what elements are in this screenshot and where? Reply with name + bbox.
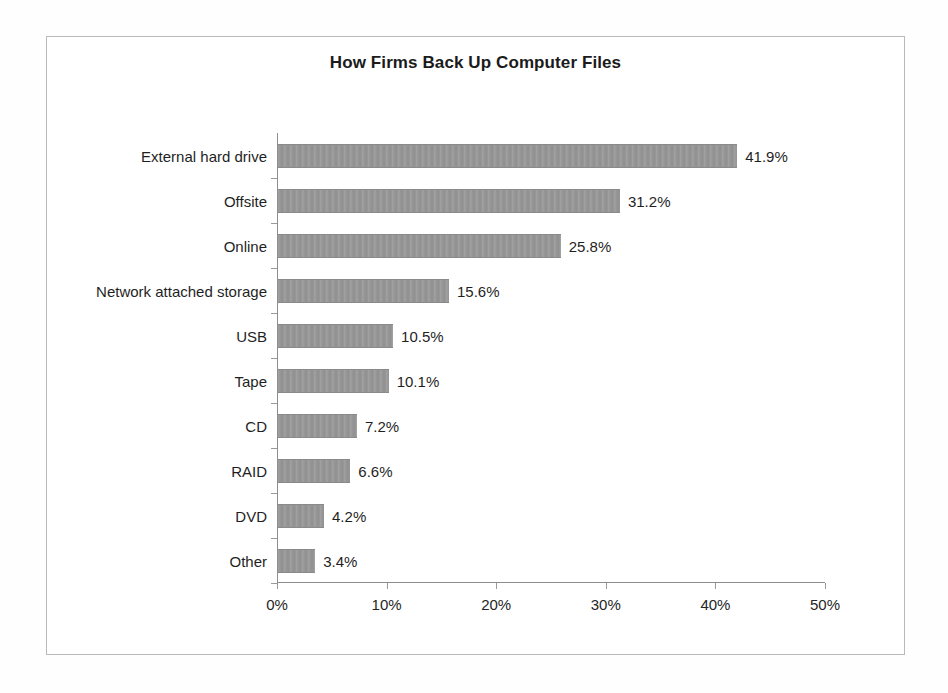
category-label: Offsite [224,192,267,209]
category-label: Network attached storage [96,282,267,299]
bar-value-label: 3.4% [323,552,357,569]
x-axis-tick-label: 10% [372,596,402,613]
bar [278,549,315,573]
x-axis-tick [606,583,607,589]
bar-value-label: 10.5% [401,327,444,344]
bar-row: Online25.8% [277,223,825,268]
bar-row: CD7.2% [277,403,825,448]
plot-area: 0%10%20%30%40%50%External hard drive41.9… [277,133,825,583]
bar-value-label: 4.2% [332,507,366,524]
bar-row: Tape10.1% [277,358,825,403]
x-axis-tick [387,583,388,589]
bar-row: External hard drive41.9% [277,133,825,178]
bar-value-label: 25.8% [569,237,612,254]
bar-value-label: 10.1% [397,372,440,389]
category-label: Tape [234,372,267,389]
category-label: Online [224,237,267,254]
bar-row: Network attached storage15.6% [277,268,825,313]
category-label: CD [245,417,267,434]
bar-row: Other3.4% [277,538,825,583]
x-axis-tick-label: 30% [591,596,621,613]
bar [278,324,393,348]
bar [278,234,561,258]
bar [278,504,324,528]
y-axis-tick [271,583,277,584]
category-label: Other [229,552,267,569]
bar [278,459,350,483]
bar-row: USB10.5% [277,313,825,358]
bar-row: Offsite31.2% [277,178,825,223]
bar [278,369,389,393]
x-axis-tick [277,583,278,589]
bar [278,189,620,213]
x-axis-tick-label: 50% [810,596,840,613]
bar-row: RAID6.6% [277,448,825,493]
x-axis-tick [496,583,497,589]
x-axis-tick [715,583,716,589]
bar-value-label: 15.6% [457,282,500,299]
category-label: External hard drive [141,147,267,164]
bar-value-label: 41.9% [745,147,788,164]
chart-figure: How Firms Back Up Computer Files 0%10%20… [0,0,948,693]
category-label: USB [236,327,267,344]
bar-value-label: 31.2% [628,192,671,209]
chart-frame: How Firms Back Up Computer Files 0%10%20… [46,36,905,655]
bar [278,144,737,168]
category-label: DVD [235,507,267,524]
chart-title: How Firms Back Up Computer Files [47,53,904,73]
bar-value-label: 6.6% [358,462,392,479]
bar [278,414,357,438]
x-axis-tick-label: 20% [481,596,511,613]
x-axis-tick-label: 0% [266,596,288,613]
bar-row: DVD4.2% [277,493,825,538]
bar [278,279,449,303]
x-axis-tick-label: 40% [700,596,730,613]
x-axis-tick [825,583,826,589]
bar-value-label: 7.2% [365,417,399,434]
category-label: RAID [231,462,267,479]
